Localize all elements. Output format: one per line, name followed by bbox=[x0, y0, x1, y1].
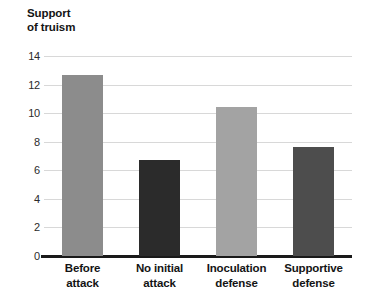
x-axis-category-label: Inoculation defense bbox=[198, 261, 275, 291]
x-axis-category-labels: Before attackNo initial attackInoculatio… bbox=[44, 261, 352, 305]
x-axis-category-label: No initial attack bbox=[121, 261, 198, 291]
y-axis-tick-label: 14 bbox=[6, 50, 40, 62]
y-axis-tick-label: 12 bbox=[6, 79, 40, 91]
x-axis-category-label: Before attack bbox=[44, 261, 121, 291]
y-axis-tick-label: 6 bbox=[6, 164, 40, 176]
y-axis-tick-label: 8 bbox=[6, 136, 40, 148]
y-axis-tick-label: 10 bbox=[6, 107, 40, 119]
bar-chart: Support of truism 02468101214 Before att… bbox=[0, 0, 365, 305]
bar bbox=[62, 75, 103, 256]
bar bbox=[293, 147, 334, 256]
y-axis-tick-label: 2 bbox=[6, 221, 40, 233]
bar bbox=[216, 107, 257, 256]
y-axis-tick-labels: 02468101214 bbox=[0, 0, 40, 305]
bar bbox=[139, 160, 180, 256]
x-axis-category-label: Supportive defense bbox=[275, 261, 352, 291]
y-axis-tick-label: 4 bbox=[6, 193, 40, 205]
bars-group bbox=[44, 56, 352, 256]
y-axis-tick-label: 0 bbox=[6, 250, 40, 262]
